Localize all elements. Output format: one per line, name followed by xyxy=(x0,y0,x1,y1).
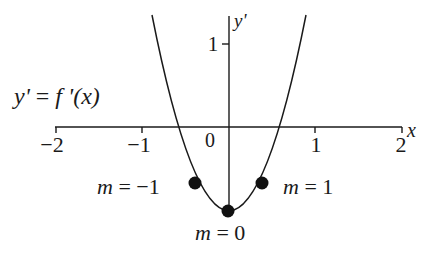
y-axis-label: y' xyxy=(232,10,247,31)
label-m-0: m = 0 xyxy=(195,220,245,245)
x-axis-label: x xyxy=(406,119,416,141)
x-tick-label-2: 2 xyxy=(396,132,407,157)
x-tick-label-neg2: −2 xyxy=(40,132,63,157)
label-m-1: m = 1 xyxy=(283,174,333,199)
y-tick-label-1: 1 xyxy=(208,32,219,56)
x-tick-label-neg1: −1 xyxy=(127,132,150,157)
x-tick-label-1: 1 xyxy=(311,132,322,157)
derivative-graph: −2 −1 0 1 2 1 x y' y' = f '(x) m = −1 m … xyxy=(0,0,443,254)
function-label: y' = f '(x) xyxy=(12,83,100,109)
x-tick-label-0: 0 xyxy=(205,129,215,151)
point-m-1 xyxy=(256,177,269,190)
label-m-neg1: m = −1 xyxy=(97,174,160,199)
point-m-neg1 xyxy=(189,177,202,190)
point-m-0 xyxy=(222,205,235,218)
